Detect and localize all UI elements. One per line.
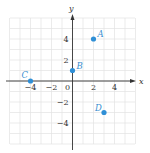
point-c <box>28 78 33 83</box>
x-tick-label: 0 <box>65 83 70 92</box>
point-label-d: D <box>94 103 102 113</box>
x-tick-label: −2 <box>46 83 58 92</box>
x-axis-arrow-icon <box>130 79 136 83</box>
x-tick-label: 2 <box>91 83 96 92</box>
y-tick-label: −2 <box>57 98 69 107</box>
y-tick-label: −4 <box>57 119 69 128</box>
x-tick-label: −4 <box>25 83 37 92</box>
y-axis-label: y <box>68 4 74 13</box>
point-label-c: C <box>22 70 29 80</box>
x-tick-label: 4 <box>112 83 117 92</box>
x-axis-label: x <box>139 77 144 86</box>
y-tick-label: 2 <box>63 56 68 65</box>
coordinate-plane: x y −4−202442−2−4 ABCD <box>0 0 150 153</box>
point-label-b: B <box>76 61 83 71</box>
point-b <box>70 68 75 73</box>
y-axis-arrow-icon <box>71 14 75 20</box>
point-d <box>101 110 106 115</box>
y-tick-label: 4 <box>63 35 68 44</box>
point-a <box>91 36 96 41</box>
point-label-a: A <box>97 29 104 39</box>
